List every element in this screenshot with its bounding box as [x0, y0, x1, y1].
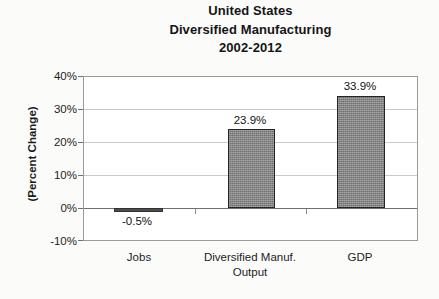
data-label-jobs: -0.5% — [122, 215, 152, 227]
x-category-label-gdp: GDP — [348, 250, 373, 265]
chart-title: United States Diversified Manufacturing … — [83, 2, 418, 58]
chart-title-line-3: 2002-2012 — [83, 39, 418, 58]
bar-gdp — [337, 96, 385, 208]
y-tick-label-neg10: -10% — [35, 235, 77, 247]
x-category-label-jobs-line-1: Jobs — [127, 250, 151, 265]
chart-title-line-2: Diversified Manufacturing — [83, 21, 418, 40]
data-label-gdp: 33.9% — [344, 80, 377, 92]
chart-title-line-1: United States — [83, 2, 418, 21]
x-category-label-diversified-manuf-output: Diversified Manuf. Output — [204, 250, 296, 280]
x-category-label-diversified-line-2: Output — [204, 265, 296, 280]
x-tick-mark-2 — [306, 209, 307, 214]
chart-screenshot: United States Diversified Manufacturing … — [0, 0, 439, 299]
y-axis-tick-labels: 40% 30% 20% 10% 0% -10% — [33, 76, 77, 241]
bar-diversified-manuf-output — [228, 129, 275, 208]
x-category-label-jobs: Jobs — [127, 250, 151, 265]
y-tick-label-10: 10% — [35, 169, 77, 181]
y-tick-label-0: 0% — [35, 202, 77, 214]
y-tick-label-40: 40% — [35, 70, 77, 82]
y-tick-label-30: 30% — [35, 103, 77, 115]
x-category-label-diversified-line-1: Diversified Manuf. — [204, 250, 296, 265]
data-label-diversified-manuf-output: 23.9% — [234, 114, 267, 126]
y-tick-label-20: 20% — [35, 136, 77, 148]
bar-jobs — [114, 208, 163, 212]
x-tick-mark-1 — [195, 209, 196, 214]
x-category-label-gdp-line-1: GDP — [348, 250, 373, 265]
